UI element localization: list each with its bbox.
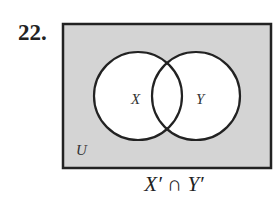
intersection-symbol: ∩ [167, 172, 182, 196]
universe-label: U [76, 142, 88, 158]
expr-y-complement: Y′ [187, 172, 203, 196]
set-x-label: X [130, 91, 141, 107]
set-expression: X′ ∩ Y′ [0, 172, 280, 197]
expr-x-complement: X′ [144, 172, 161, 196]
